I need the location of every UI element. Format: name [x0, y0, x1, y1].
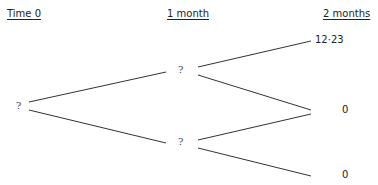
leaf-down-down: 0	[342, 169, 348, 180]
node-up: ?	[178, 64, 183, 75]
node-down: ?	[178, 136, 183, 147]
branch-up-down	[198, 75, 311, 110]
tree-branches	[0, 0, 378, 185]
node-root: ?	[16, 100, 21, 111]
branch-down-up	[198, 114, 311, 140]
branch-down-down	[198, 148, 311, 176]
leaf-up-down: 0	[342, 104, 348, 115]
leaf-up-up: 12·23	[315, 34, 344, 45]
branch-root-up	[29, 72, 166, 102]
branch-up-up	[198, 41, 311, 67]
branch-root-down	[29, 110, 166, 143]
